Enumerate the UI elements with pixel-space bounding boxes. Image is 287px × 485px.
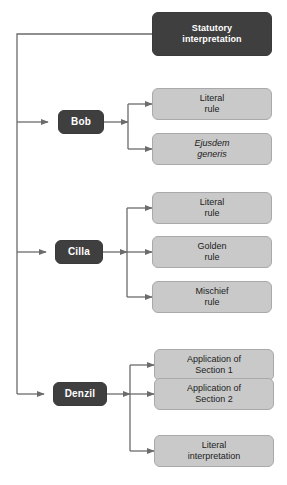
node-cilla-golden-rule: Golden rule bbox=[152, 236, 272, 268]
node-label: Statutory interpretation bbox=[182, 23, 241, 44]
node-label: Literal rule bbox=[200, 197, 225, 218]
node-bob: Bob bbox=[58, 110, 104, 134]
node-label: Mischief rule bbox=[195, 286, 228, 307]
node-denzil: Denzil bbox=[53, 382, 107, 406]
node-label: Literal rule bbox=[200, 93, 225, 114]
node-label: Application of Section 1 bbox=[187, 354, 241, 375]
node-label: Denzil bbox=[65, 388, 96, 400]
node-label: Literal interpretation bbox=[188, 440, 241, 461]
node-label: Golden rule bbox=[197, 241, 226, 262]
node-bob-ejusdem-generis: Ejusdem generis bbox=[152, 133, 272, 165]
node-denzil-application-section-2: Application of Section 2 bbox=[154, 378, 274, 410]
node-label: Bob bbox=[71, 116, 91, 128]
node-cilla: Cilla bbox=[55, 240, 103, 264]
node-bob-literal-rule: Literal rule bbox=[152, 88, 272, 120]
node-cilla-literal-rule: Literal rule bbox=[152, 192, 272, 224]
node-statutory-interpretation: Statutory interpretation bbox=[152, 12, 272, 56]
node-label: Application of Section 2 bbox=[187, 383, 241, 404]
node-label: Cilla bbox=[68, 246, 90, 258]
node-denzil-application-section-1: Application of Section 1 bbox=[154, 349, 274, 381]
node-denzil-literal-interpretation: Literal interpretation bbox=[154, 435, 274, 467]
node-cilla-mischief-rule: Mischief rule bbox=[152, 281, 272, 313]
node-label: Ejusdem generis bbox=[194, 138, 229, 159]
statutory-interpretation-diagram: Statutory interpretation Bob Literal rul… bbox=[0, 0, 287, 485]
main-spine bbox=[17, 34, 152, 394]
